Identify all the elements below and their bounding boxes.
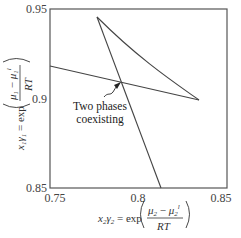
annotation-line1: Two phases [73,100,127,113]
x-tick-075: 0.75 [45,191,66,205]
svg-text:x2γ2 = exp: x2γ2 = exp [97,212,142,226]
annotation-line2: coexisting [76,113,124,126]
svg-text:μ2 − μ2l: μ2 − μ2l [147,203,180,218]
y-axis-label: x1γ1 = exp μ1 − μ1l RT [3,59,34,152]
chart: 0.95 0.9 0.85 0.75 0.8 0.85 Two phases c… [0,0,241,238]
annotation-arrow [104,82,121,97]
svg-text:RT: RT [22,77,34,92]
svg-text:RT: RT [156,220,171,232]
x-tick-085: 0.85 [211,191,232,205]
y-tick-095: 0.95 [26,2,47,16]
plot-frame [50,9,227,188]
svg-text:μ1 − μ1l: μ1 − μ1l [5,68,20,101]
x-axis-label: x2γ2 = exp μ2 − μ2l RT [97,201,190,232]
y-tick-09: 0.9 [32,92,47,106]
svg-text:x1γ1 = exp: x1γ1 = exp [14,106,28,151]
